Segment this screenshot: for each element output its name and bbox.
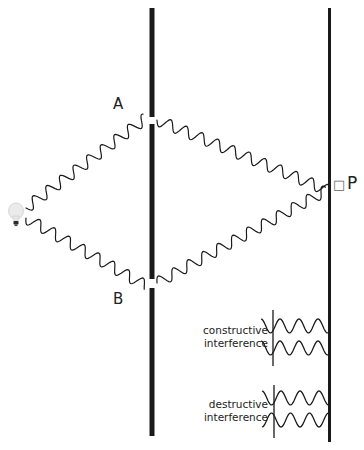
slit-b-label: B [113,290,123,308]
destructive-interference-label: destructive interference [188,398,268,424]
destructive-wave-2 [262,413,330,427]
point-marker-glyph: □ [333,177,345,192]
constructive-interference-label: constructive interference [188,324,268,350]
destructive-label-line1: destructive [188,398,268,411]
constructive-interference-illustration [261,310,329,366]
wave-source-to-slit-b [26,218,145,289]
detection-screen [328,8,331,442]
double-slit-diagram [0,0,364,450]
point-p-label: P [347,173,357,193]
light-waves [26,114,329,289]
wave-slit-a-to-p [157,120,329,192]
constructive-wave-1 [261,319,329,333]
slit-barrier [150,8,155,436]
constructive-wave-2 [261,341,329,355]
barrier-top-segment [150,8,155,117]
wave-slit-b-to-p [157,186,326,283]
wave-source-to-slit-a [26,114,143,210]
destructive-interference-illustration [262,385,330,438]
constructive-label-line1: constructive [188,324,268,337]
slit-a-label: A [113,95,123,113]
light-bulb-icon [9,203,24,226]
destructive-wave-1 [262,391,330,405]
destructive-label-line2: interference [188,411,268,424]
barrier-bottom-segment [150,288,155,436]
constructive-label-line2: interference [188,337,268,350]
barrier-middle-segment [150,124,155,279]
